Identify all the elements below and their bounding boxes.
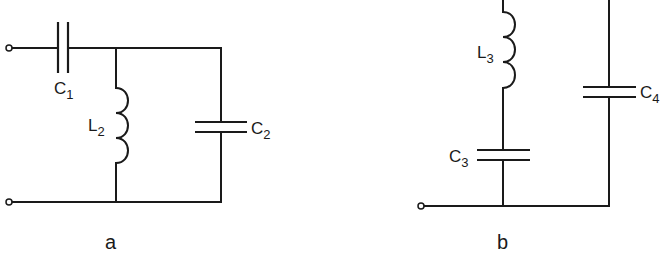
label-c4: C4 <box>640 84 660 105</box>
terminal-b-icon <box>418 203 424 209</box>
label-l2: L2 <box>88 117 105 138</box>
caption-a: a <box>105 232 116 252</box>
circuit-b <box>418 0 636 209</box>
terminal-a-top-icon <box>6 45 12 51</box>
label-c1: C1 <box>54 80 74 101</box>
label-c3: C3 <box>449 148 469 169</box>
terminal-a-bottom-icon <box>6 199 12 205</box>
inductor-l2-icon <box>116 88 128 163</box>
label-l3: L3 <box>477 44 494 65</box>
caption-b: b <box>497 232 508 252</box>
inductor-l3-icon <box>503 12 515 88</box>
label-c2: C2 <box>251 120 271 141</box>
circuit-a <box>6 22 247 205</box>
